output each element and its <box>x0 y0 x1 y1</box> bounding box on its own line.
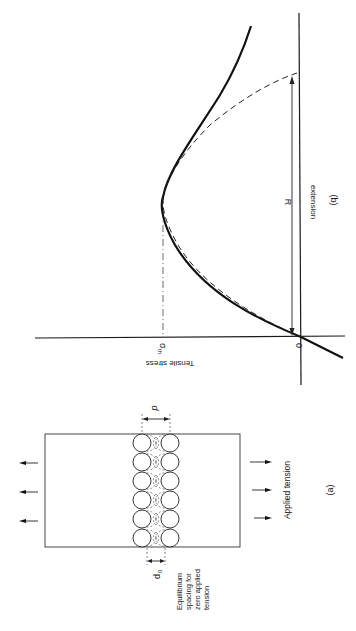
spacing-d0-dimension: d 0 <box>147 548 165 579</box>
d0-sub: 0 <box>157 569 163 573</box>
origin-label: 0 <box>294 343 304 348</box>
applied-tension-label: Applied tension <box>282 461 292 519</box>
range-label: R <box>283 199 293 206</box>
caption-line-4: tension <box>202 586 211 610</box>
spacing-d-dimension: d <box>142 405 170 433</box>
x-axis-label: extension <box>309 185 318 219</box>
equilibrium-caption: Equilibrium spacing for zero applied ten… <box>175 569 211 610</box>
caption-line-1: Equilibrium <box>175 573 184 610</box>
arrow-right-icon <box>265 488 272 492</box>
arrow-left-icon <box>19 461 26 465</box>
y-axis-label: Tensile stress <box>146 359 194 368</box>
arrow-left-icon <box>19 519 26 523</box>
caption-line-3: zero applied <box>193 569 202 610</box>
d0-main: d <box>152 574 162 579</box>
figure-b-label: (b) <box>329 195 339 206</box>
right-tension-arrows <box>250 460 272 520</box>
arrow-left-icon <box>19 490 26 494</box>
range-arrow-head-top <box>290 76 295 84</box>
arrow-right-icon <box>265 460 272 464</box>
extension-axis <box>299 13 301 385</box>
figure-b: R extension (b) 0 σ th Tensile stress <box>35 13 345 385</box>
caption-line-2: spacing for <box>184 573 193 610</box>
figure-canvas: R extension (b) 0 σ th Tensile stress <box>0 0 356 631</box>
spacing-d0-label: d 0 <box>152 569 163 579</box>
sigma-subscript: th <box>157 349 163 354</box>
peak-stress-label: σ th <box>157 343 168 354</box>
figure-a: d d 0 Equilibrium spacing for zero appli… <box>19 405 335 610</box>
arrow-right-icon <box>265 516 272 520</box>
spacing-d-label: d <box>150 405 160 411</box>
equilibrium-atom-overlay <box>153 437 158 544</box>
figure-a-label: (a) <box>325 484 335 495</box>
dashed-approx-curve <box>163 73 301 337</box>
left-tension-arrows <box>19 461 38 523</box>
